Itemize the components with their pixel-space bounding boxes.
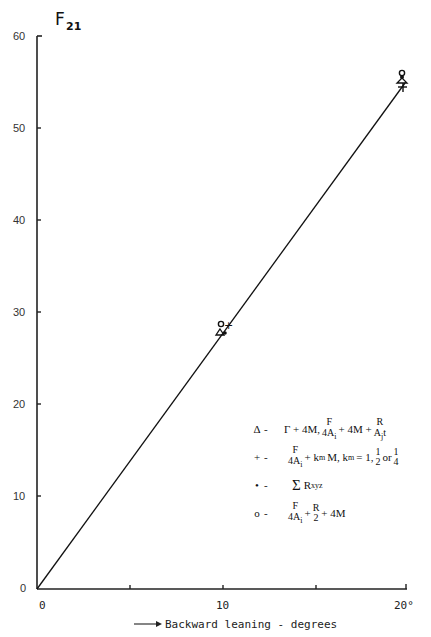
y-tick-label: 30 <box>13 306 25 318</box>
y-axis-label: F <box>55 9 65 29</box>
y-tick-label: 50 <box>13 122 25 134</box>
circle-icon: o <box>250 507 264 519</box>
fraction: R2 <box>313 503 320 524</box>
y-tick-label: 0 <box>20 582 26 594</box>
x-axis-title: Backward leaning - degrees <box>165 618 337 631</box>
x-tick-label: 20° <box>394 599 414 612</box>
chart-canvas: 60 50 40 30 20 10 0 F 21 0 10 20° Backwa… <box>0 0 431 637</box>
fraction: R Ajt <box>374 417 386 441</box>
fraction: F 4Ai <box>288 445 302 469</box>
legend: Δ - Γ + 4M, F 4Ai + 4M + R Ajt + - F 4Ai… <box>250 415 430 527</box>
y-axis-label-subscript: 21 <box>66 20 81 33</box>
triangle-icon: Δ <box>250 423 264 435</box>
plus-marker: + <box>224 319 233 332</box>
legend-item-triangle: Δ - Γ + 4M, F 4Ai + 4M + R Ajt <box>250 415 430 443</box>
triangle-marker <box>397 78 407 83</box>
plus-icon: + <box>250 451 264 463</box>
x-tick-label: 0 <box>39 599 46 612</box>
legend-item-dot: • - Σ Rxyz <box>250 471 430 499</box>
data-points-10deg: + <box>216 319 233 335</box>
dot-icon: • <box>250 479 264 491</box>
fraction: F 4Ai <box>322 417 336 441</box>
fraction: 14 <box>394 447 399 468</box>
y-tick-label: 20 <box>13 398 25 410</box>
dot-marker <box>223 331 227 335</box>
y-tick-label: 40 <box>13 214 25 226</box>
triangle-marker <box>216 329 224 335</box>
legend-item-plus: + - F 4Ai + km M, km = 1, 12 or 14 <box>250 443 430 471</box>
data-points-20deg <box>397 70 407 92</box>
fraction: F 4Ai <box>288 501 302 525</box>
y-tick-label: 10 <box>13 490 25 502</box>
circle-marker <box>399 70 404 75</box>
x-tick-label: 10 <box>216 599 229 612</box>
legend-item-circle: o - F 4Ai + R2 + 4M <box>250 499 430 527</box>
sigma-symbol: Σ <box>292 477 301 494</box>
y-tick-label: 60 <box>13 30 25 42</box>
circle-marker <box>218 321 223 326</box>
fraction: 12 <box>375 447 380 468</box>
